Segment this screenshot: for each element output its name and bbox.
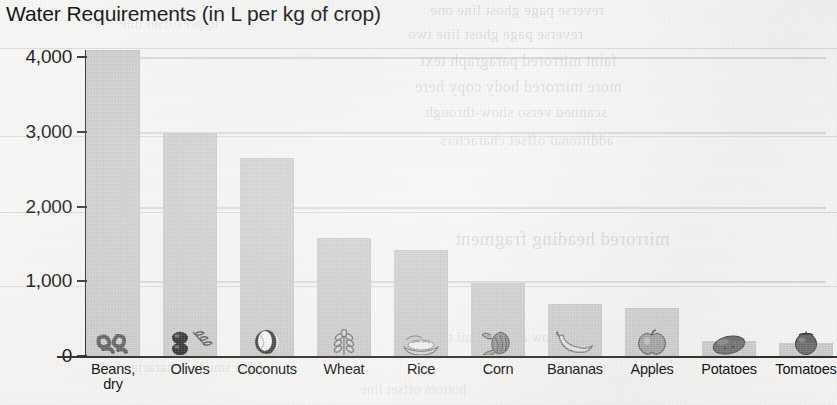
x-axis-tick-label: Apples [614, 362, 690, 377]
bar-chart: Water Requirements (in L per kg of crop)… [0, 0, 837, 405]
y-axis-tick [77, 131, 87, 133]
bar [625, 308, 679, 356]
plot-area [86, 40, 826, 356]
bar [394, 250, 448, 356]
bar [779, 343, 833, 356]
x-axis-tick-label: Olives [152, 362, 228, 377]
y-axis-tick [77, 56, 87, 58]
x-axis-tick-label: Potatoes [691, 362, 767, 377]
rice-icon [394, 329, 448, 355]
potato-icon [702, 329, 756, 355]
y-axis-tick-label: 2,000 [0, 196, 72, 218]
bar [163, 133, 217, 356]
x-axis-tick-label: Beans,dry [75, 362, 151, 391]
x-axis-tick-label: Corn [460, 362, 536, 377]
x-axis-tick-label: Coconuts [229, 362, 305, 377]
coconut-icon [240, 329, 294, 355]
x-axis-line [57, 356, 837, 358]
tomato-icon [779, 329, 833, 355]
y-axis-tick [77, 355, 87, 357]
y-axis-tick-label: 1,000 [0, 270, 72, 292]
x-axis-tick-label: Rice [383, 362, 459, 377]
y-axis-tick [77, 206, 87, 208]
corn-icon [471, 329, 525, 355]
wheat-icon [317, 329, 371, 355]
y-axis-tick-label: 3,000 [0, 121, 72, 143]
y-axis-tick-label: 4,000 [0, 46, 72, 68]
x-axis-tick-label: Tomatoes [768, 362, 837, 377]
x-axis-tick-label: Wheat [306, 362, 382, 377]
bar [702, 341, 756, 356]
apple-icon [625, 329, 679, 355]
x-axis-tick-label: Bananas [537, 362, 613, 377]
banana-icon [548, 329, 602, 355]
y-axis-labels: 01,0002,0003,0004,000 [0, 0, 72, 405]
bar [240, 158, 294, 356]
bar [548, 304, 602, 356]
bar [86, 50, 140, 356]
bar [471, 283, 525, 356]
gridline [86, 57, 826, 59]
bar [317, 238, 371, 356]
beans-icon [86, 329, 140, 355]
olives-icon [163, 329, 217, 355]
y-axis-tick [77, 280, 87, 282]
